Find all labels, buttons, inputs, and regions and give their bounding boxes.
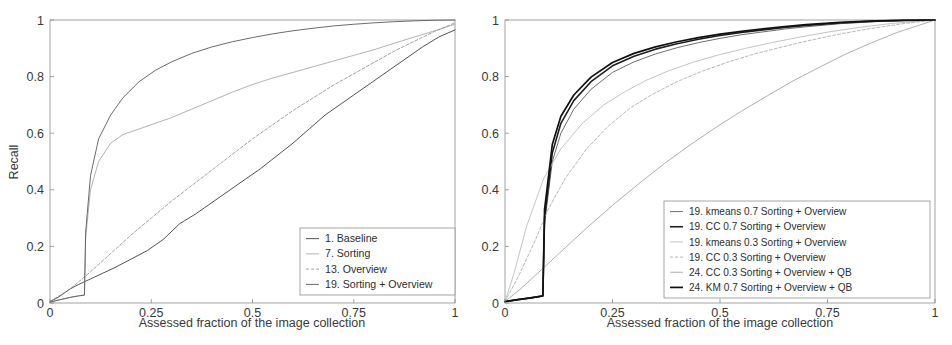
legend-item-label[interactable]: 19. CC 0.7 Sorting + Overview [689, 221, 826, 232]
x-tick-label: 1 [932, 306, 939, 320]
y-tick-label: 0.8 [482, 70, 499, 84]
y-tick-label: 0.8 [27, 70, 44, 84]
left-x-axis-title: Assessed fraction of the image collectio… [139, 316, 366, 330]
y-tick-label: 0.6 [27, 127, 44, 141]
legend-item-label[interactable]: 1. Baseline [325, 232, 378, 244]
left-legend[interactable]: 1. Baseline7. Sorting13. Overview19. Sor… [300, 228, 455, 295]
right-x-axis-title: Assessed fraction of the image collectio… [607, 316, 834, 330]
legend-item-label[interactable]: 19. Sorting + Overview [325, 278, 433, 290]
legend-item-label[interactable]: 24. CC 0.3 Sorting + Overview + QB [689, 267, 852, 278]
y-tick-label: 1 [37, 14, 44, 28]
legend-item-label[interactable]: 19. kmeans 0.7 Sorting + Overview [689, 206, 847, 217]
y-tick-label: 0.4 [482, 183, 499, 197]
left-chart-svg: 00.250.50.751 00.20.40.60.81 Assessed fr… [0, 0, 476, 345]
y-tick-label: 0.6 [482, 127, 499, 141]
y-tick-label: 0.2 [27, 240, 44, 254]
x-tick-label: 0 [47, 306, 54, 320]
right-legend[interactable]: 19. kmeans 0.7 Sorting + Overview19. CC … [664, 201, 930, 298]
left-y-axis-title: Recall [7, 145, 21, 180]
legend-item-label[interactable]: 19. CC 0.3 Sorting + Overview [689, 252, 826, 263]
chart-panel-left: 00.250.50.751 00.20.40.60.81 Assessed fr… [0, 0, 476, 345]
y-tick-label: 0.2 [482, 240, 499, 254]
y-tick-label: 0.4 [27, 183, 44, 197]
y-tick-label: 0 [37, 297, 44, 311]
y-tick-label: 1 [492, 14, 499, 28]
legend-item-label[interactable]: 7. Sorting [325, 247, 370, 259]
figure-root: 00.250.50.751 00.20.40.60.81 Assessed fr… [0, 0, 952, 345]
legend-item-label[interactable]: 13. Overview [325, 263, 387, 275]
x-tick-label: 1 [452, 306, 459, 320]
legend-item-label[interactable]: 19. kmeans 0.3 Sorting + Overview [689, 237, 847, 248]
right-chart-svg: 00.250.50.751 00.20.40.60.81 Assessed fr… [476, 0, 952, 345]
chart-panel-right: 00.250.50.751 00.20.40.60.81 Assessed fr… [476, 0, 952, 345]
x-tick-label: 0 [502, 306, 509, 320]
legend-item-label[interactable]: 24. KM 0.7 Sorting + Overview + QB [689, 282, 853, 293]
y-tick-label: 0 [492, 297, 499, 311]
